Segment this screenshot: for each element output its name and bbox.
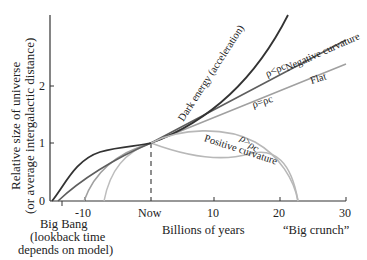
y-axis-label-line2: (or average intergalactic distance) [24, 38, 36, 214]
big-bang-sub2: depends on model) [18, 244, 113, 256]
x-axis-label: Billions of years [162, 224, 245, 236]
y-tick-label-0: 0 [39, 195, 45, 207]
x-tick-label-30: 30 [339, 207, 351, 219]
x-tick-label-10: 10 [207, 207, 219, 219]
curves [52, 15, 346, 201]
big-bang-sub1: (lookback time [30, 231, 105, 243]
x-tick-label-20: 20 [273, 207, 285, 219]
y-tick-label-1: 1 [39, 137, 45, 149]
y-tick-label-2: 2 [39, 80, 45, 92]
series-positive-curvature [151, 143, 298, 201]
y-axis-label-line1: Relative size of universe [10, 62, 22, 190]
x-tick-label-now: Now [138, 207, 161, 219]
big-crunch-label: “Big crunch” [283, 224, 349, 236]
axes [50, 15, 346, 206]
series-flat [84, 64, 346, 201]
big-bang-label: Big Bang [40, 218, 88, 230]
